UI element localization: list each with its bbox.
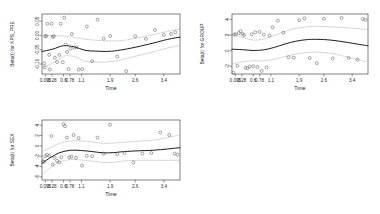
y-tick-label: -0.05 <box>35 44 40 55</box>
data-point <box>69 47 72 50</box>
x-tick-label: 1.9 <box>296 78 303 83</box>
data-point <box>174 31 177 34</box>
data-point <box>72 134 75 137</box>
fitted-curve <box>232 39 368 50</box>
data-point <box>56 159 59 162</box>
data-point <box>53 156 56 159</box>
data-point <box>153 29 156 32</box>
data-point <box>252 65 255 68</box>
ci-lower-band <box>42 159 180 174</box>
x-tick-label: 2.6 <box>132 78 139 83</box>
data-point <box>258 30 261 33</box>
panel-kps-pre-canvas: 0.0950.280.60.781.11.92.63.40.050.00-0.0… <box>4 4 192 106</box>
panel-group-canvas: 0.0950.280.60.781.11.92.63.4420-2Beta(t)… <box>194 4 380 106</box>
data-point <box>43 62 46 65</box>
data-point <box>77 68 80 71</box>
data-point <box>63 16 66 19</box>
data-point <box>159 131 162 134</box>
data-point <box>150 152 153 155</box>
data-point <box>116 55 119 58</box>
data-point <box>46 22 49 25</box>
data-point <box>173 152 176 155</box>
data-point <box>303 17 306 20</box>
y-tick-label: -0.10 <box>35 58 40 69</box>
data-point <box>141 152 144 155</box>
data-point <box>52 35 55 38</box>
data-point <box>292 56 295 59</box>
data-point <box>81 164 84 167</box>
y-tick-label: -6 <box>35 174 40 179</box>
data-point <box>67 68 70 71</box>
y-tick-label: 4 <box>225 18 230 21</box>
x-tick-label: 1.9 <box>107 184 114 189</box>
x-tick-label: 2.6 <box>321 78 328 83</box>
y-axis-title: Beta(t) for KPS_PRE <box>10 20 15 66</box>
y-tick-label: 0.00 <box>35 31 40 40</box>
data-point <box>132 161 135 164</box>
y-tick-label: -2 <box>35 154 40 159</box>
data-point <box>239 30 242 33</box>
data-point <box>268 34 271 37</box>
data-point <box>96 18 99 21</box>
panel-sex-canvas: 0.0950.280.60.781.11.92.63.4420-2-4-6Bet… <box>4 110 192 212</box>
data-point <box>308 57 311 60</box>
data-point <box>260 69 263 72</box>
data-point <box>116 153 119 156</box>
data-point <box>287 56 290 59</box>
y-tick-label: 2 <box>35 134 40 137</box>
data-point <box>48 68 51 71</box>
data-point <box>271 26 274 29</box>
data-point <box>50 22 53 25</box>
x-tick-label: 1.1 <box>78 184 85 189</box>
data-point <box>246 67 249 70</box>
ci-lower-band <box>42 45 180 67</box>
y-tick-label: 2 <box>225 33 230 36</box>
panel-sex: 0.0950.280.60.781.11.92.63.4420-2-4-6Bet… <box>4 110 192 212</box>
data-point <box>340 16 343 19</box>
data-point <box>91 155 94 158</box>
data-point <box>254 31 257 34</box>
data-point <box>109 35 112 38</box>
y-axis-title: Beta(t) for GROUP <box>200 23 205 64</box>
x-tick-label: 1.9 <box>107 78 114 83</box>
x-tick-label: 1.1 <box>268 78 275 83</box>
data-point <box>265 66 268 69</box>
data-point <box>331 57 334 60</box>
data-point <box>361 18 364 21</box>
data-point <box>162 33 165 36</box>
data-point <box>66 136 69 139</box>
data-point <box>48 53 51 56</box>
x-tick-label: 1.1 <box>78 78 85 83</box>
data-point <box>85 154 88 157</box>
data-point <box>170 33 173 36</box>
x-tick-label: 0.28 <box>48 184 57 189</box>
y-tick-label: -2 <box>225 64 230 69</box>
data-point <box>58 53 61 56</box>
data-point <box>125 70 128 73</box>
data-point <box>70 155 73 158</box>
data-point <box>81 68 84 71</box>
data-point <box>53 56 56 59</box>
ci-upper-band <box>42 135 180 152</box>
x-tick-label: 2.6 <box>132 184 139 189</box>
data-point <box>236 64 239 67</box>
y-tick-label: 4 <box>35 123 40 126</box>
data-point <box>364 18 367 21</box>
data-point <box>60 156 63 159</box>
data-point <box>61 61 64 64</box>
data-point <box>109 123 112 126</box>
ci-lower-band <box>232 52 368 64</box>
data-point <box>75 156 78 159</box>
x-tick-label: 0.78 <box>65 184 74 189</box>
x-axis-title: Time <box>105 85 116 91</box>
x-tick-label: 3.4 <box>349 78 356 83</box>
data-point <box>56 61 59 64</box>
data-point <box>66 51 69 54</box>
data-point <box>315 62 318 65</box>
ci-upper-band <box>232 26 368 40</box>
y-tick-label: 0.05 <box>35 16 40 25</box>
x-tick-label: 3.4 <box>161 78 168 83</box>
data-point <box>248 65 251 68</box>
x-tick-label: 0.28 <box>237 78 246 83</box>
data-point <box>256 65 259 68</box>
